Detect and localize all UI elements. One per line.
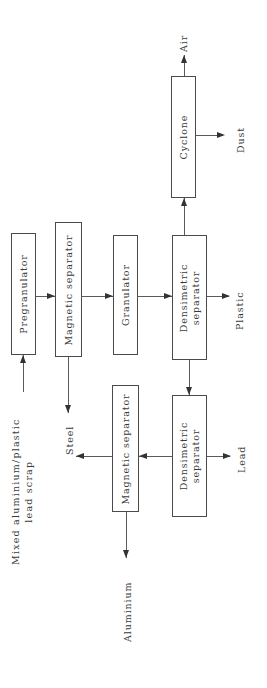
arrowhead-densimetric1-to-plastic <box>222 293 230 299</box>
node-magnetic-separator-1-label: Magnetic separator <box>63 234 75 345</box>
arrowhead-magnetic2-to-aluminium <box>123 550 129 558</box>
arrowhead-densimetric1-to-cyclone <box>181 198 187 206</box>
stream-label-aluminium: Aluminium <box>122 582 135 642</box>
stream-label-plastic: Plastic <box>234 292 247 330</box>
node-densimetric-separator-2[interactable]: Densimetric separator <box>172 395 207 517</box>
node-densimetric-separator-2-label: Densimetric separator <box>178 422 202 491</box>
stream-label-dust: Dust <box>235 127 248 153</box>
arrowhead-granulator-to-densimetric1 <box>164 293 172 299</box>
arrowhead-cyclone-to-air <box>181 55 187 63</box>
node-magnetic-separator-2-label: Magnetic separator <box>120 393 132 504</box>
stream-label-feed: Mixed aluminium/plastic lead scrap <box>10 418 36 565</box>
stream-label-lead: Lead <box>236 446 249 473</box>
arrowhead-densimetric2-to-lead <box>223 453 231 459</box>
node-granulator-label: Granulator <box>120 264 132 326</box>
arrowhead-magnetic1-to-granulator <box>105 293 113 299</box>
arrowhead-feed-to-pregranulator <box>20 355 26 363</box>
node-cyclone-label: Cyclone <box>178 115 190 160</box>
node-magnetic-separator-2[interactable]: Magnetic separator <box>112 385 139 512</box>
process-flow-diagram: Pregranulator Magnetic separator Granula… <box>0 0 267 688</box>
node-densimetric-separator-1-label: Densimetric separator <box>178 263 202 332</box>
stream-label-steel: Steel <box>64 426 77 455</box>
node-pregranulator[interactable]: Pregranulator <box>11 233 36 355</box>
node-pregranulator-label: Pregranulator <box>18 254 30 334</box>
stream-label-air: Air <box>178 35 191 52</box>
node-granulator[interactable]: Granulator <box>113 235 138 355</box>
arrowhead-pregranulator-to-magnetic1 <box>47 293 55 299</box>
arrowhead-magnetic1-to-steel <box>65 405 71 413</box>
node-magnetic-separator-1[interactable]: Magnetic separator <box>55 222 82 357</box>
node-cyclone[interactable]: Cyclone <box>171 76 196 198</box>
arrowhead-magnetic2-to-steel <box>76 453 84 459</box>
node-densimetric-separator-1[interactable]: Densimetric separator <box>172 235 207 360</box>
arrowhead-cyclone-to-dust <box>217 132 225 138</box>
arrowhead-densimetric1-to-densimetric2 <box>186 387 192 395</box>
arrowhead-densimetric2-to-magnetic2 <box>139 453 147 459</box>
